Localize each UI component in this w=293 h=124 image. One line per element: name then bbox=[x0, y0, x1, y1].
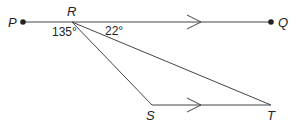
label-q: Q bbox=[278, 15, 288, 30]
label-t: T bbox=[267, 108, 276, 123]
angle-135: 135° bbox=[52, 25, 77, 39]
segment-rt bbox=[72, 22, 271, 105]
diagram-svg: P R Q S T 135° 22° bbox=[0, 0, 293, 124]
point-q-dot bbox=[268, 19, 274, 25]
label-r: R bbox=[67, 4, 76, 19]
label-s: S bbox=[146, 108, 155, 123]
angle-22: 22° bbox=[105, 24, 123, 38]
point-p-dot bbox=[20, 19, 26, 25]
geometry-diagram: P R Q S T 135° 22° bbox=[0, 0, 293, 124]
label-p: P bbox=[8, 15, 17, 30]
